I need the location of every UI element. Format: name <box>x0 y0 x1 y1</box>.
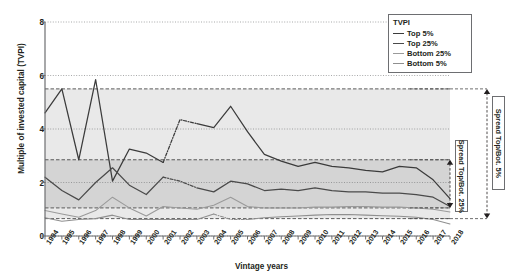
legend-item-label: Bottom 25% <box>407 49 451 58</box>
annotation-spread-top-bot-5: Spread Top/Bot. 5% <box>492 96 505 190</box>
chart-container: Multiple of invested capital (TVPI) 0246… <box>0 0 523 280</box>
annotation-spread-top-bot-5-label: Spread Top/Bot. 5% <box>494 108 503 177</box>
legend-item-label: Top 5% <box>407 29 433 38</box>
x-axis-title: Vintage years <box>0 262 523 271</box>
annotation-spread-top-bot-25-label: Spread Top/Bot. 25% <box>457 139 466 212</box>
legend-swatch-icon <box>393 33 404 34</box>
legend-title: TVPI <box>393 18 467 27</box>
spread-arrowhead-bottom-spread-5 <box>484 214 490 219</box>
legend-item-top-25[interactable]: Top 25% <box>393 38 467 48</box>
legend-item-bottom-5[interactable]: Bottom 5% <box>393 58 467 68</box>
annotation-spread-top-bot-25: Spread Top/Bot. 25% <box>455 140 468 212</box>
legend-swatch-icon <box>393 43 404 44</box>
legend-swatch-icon <box>393 53 404 54</box>
legend-items: Top 5%Top 25%Bottom 25%Bottom 5% <box>393 28 467 68</box>
legend-item-top-5[interactable]: Top 5% <box>393 28 467 38</box>
spread-arrowhead-top-spread-5 <box>484 89 490 94</box>
legend: TVPI Top 5%Top 25%Bottom 25%Bottom 5% <box>388 14 472 73</box>
legend-item-label: Top 25% <box>407 39 438 48</box>
legend-item-bottom-25[interactable]: Bottom 25% <box>393 48 467 58</box>
legend-swatch-icon <box>393 63 404 64</box>
legend-item-label: Bottom 5% <box>407 59 447 68</box>
